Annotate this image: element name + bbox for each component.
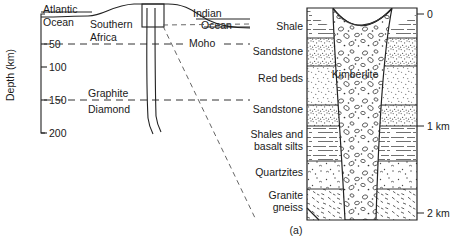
axis-tick-100: 100 [49,61,67,73]
scale-1-km: 1 km [427,120,450,132]
label-quartzites: Quartzites [255,166,303,178]
label-shales-and: Shales and [250,128,303,140]
label-graphite: Graphite [88,87,128,99]
label-granite: Granite [269,189,304,201]
label-diamond: Diamond [88,103,130,115]
label-atlantic-line1: Atlantic [43,3,77,15]
label-atlantic-line2: Ocean [43,16,74,28]
label-moho: Moho [189,37,215,49]
label-shale: Shale [276,20,303,32]
label-red-beds: Red beds [258,72,303,84]
label-southern-africa-line1: Southern [90,18,133,30]
right-panel-pipe-detail: 0 1 km 2 km Shale Sandstone Red beds San… [250,8,450,220]
depth-axis: 50 100 150 200 Depth (km) [4,14,67,139]
right-depth-scale: 0 1 km 2 km [417,8,450,219]
kimberlite-cross-section-figure: 50 100 150 200 Depth (km) Atlantic Ocean… [0,0,476,239]
depth-axis-title: Depth (km) [4,49,16,101]
label-sandstone-2: Sandstone [253,103,303,115]
label-sandstone-1: Sandstone [253,45,303,57]
leader-line-lower [163,26,256,220]
label-kimberlite: Kimberlite [332,68,379,80]
label-indian-line1: Indian [193,7,222,19]
axis-tick-200: 200 [49,127,67,139]
label-basalt-silts: basalt silts [254,140,303,152]
figure-caption: (a) [290,224,303,236]
label-southern-africa-line2: Africa [90,31,117,43]
detail-box [142,4,164,27]
left-panel-lithosphere: 50 100 150 200 Depth (km) Atlantic Ocean… [4,3,256,220]
scale-2-km: 2 km [427,207,450,219]
label-gneiss: gneiss [273,201,303,213]
label-indian-line2: Ocean [201,19,232,31]
scale-0: 0 [427,8,433,20]
